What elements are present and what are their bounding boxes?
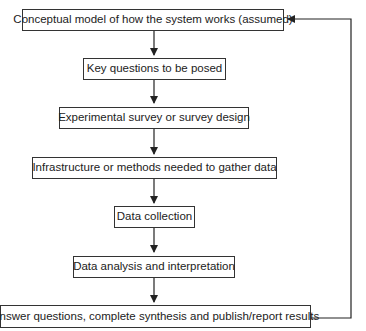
step-infrastructure: Infrastructure or methods needed to gath… <box>32 157 277 179</box>
step-answer-questions: Answer questions, complete synthesis and… <box>0 305 311 328</box>
step-survey-design: Experimental survey or survey design <box>59 107 249 129</box>
step-data-analysis: Data analysis and interpretation <box>73 256 235 278</box>
step-conceptual-model: Conceptual model of how the system works… <box>22 9 284 31</box>
step-key-questions: Key questions to be posed <box>83 58 226 80</box>
step-data-collection: Data collection <box>114 206 195 228</box>
